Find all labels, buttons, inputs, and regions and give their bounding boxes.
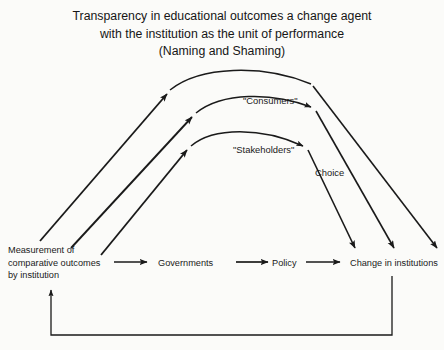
edge-ascend-outer bbox=[40, 94, 167, 241]
label-choice: Choice bbox=[315, 168, 344, 177]
node-governments: Governments bbox=[158, 257, 213, 270]
edge-descend-stakeholders bbox=[308, 150, 355, 248]
edge-descend-consumers bbox=[316, 111, 394, 248]
edge-feedback-loop bbox=[51, 276, 392, 335]
node-measurement: Measurement of comparative outcomes by i… bbox=[8, 244, 100, 282]
diagram-arrows bbox=[0, 0, 444, 350]
label-stakeholders: "Stakeholders" bbox=[233, 145, 294, 154]
node-change-in-institutions: Change in institutions bbox=[350, 257, 438, 270]
diagram-canvas: Transparency in educational outcomes a c… bbox=[0, 0, 444, 350]
node-policy: Policy bbox=[272, 257, 297, 270]
edge-arc-outer bbox=[170, 70, 311, 90]
edge-ascend-middle bbox=[71, 117, 192, 248]
label-consumers: "Consumers" bbox=[243, 96, 298, 105]
